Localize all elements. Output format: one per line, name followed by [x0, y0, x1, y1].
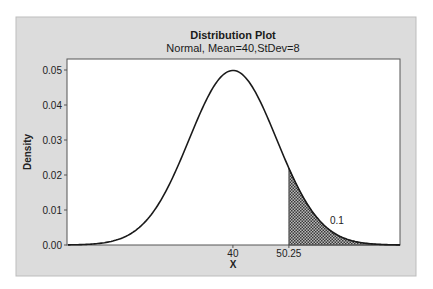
- y-tick-label: 0.02: [43, 170, 63, 181]
- x-axis-label: X: [230, 259, 237, 270]
- y-axis-label: Density: [22, 134, 33, 171]
- chart-title: Distribution Plot: [190, 29, 276, 41]
- y-tick-label: 0.05: [43, 65, 63, 76]
- plot-area: [67, 59, 400, 245]
- y-tick-label: 0.03: [43, 135, 63, 146]
- distribution-plot-chart: Distribution Plot Normal, Mean=40,StDev=…: [0, 0, 433, 289]
- x-tick-label: 50.25: [276, 248, 301, 259]
- y-tick-label: 0.04: [43, 100, 63, 111]
- y-tick-label: 0.00: [43, 240, 63, 251]
- tail-area-annotation: 0.1: [330, 215, 344, 226]
- x-tick-label: 40: [227, 248, 239, 259]
- chart-subtitle: Normal, Mean=40,StDev=8: [166, 42, 299, 54]
- y-tick-label: 0.01: [43, 205, 63, 216]
